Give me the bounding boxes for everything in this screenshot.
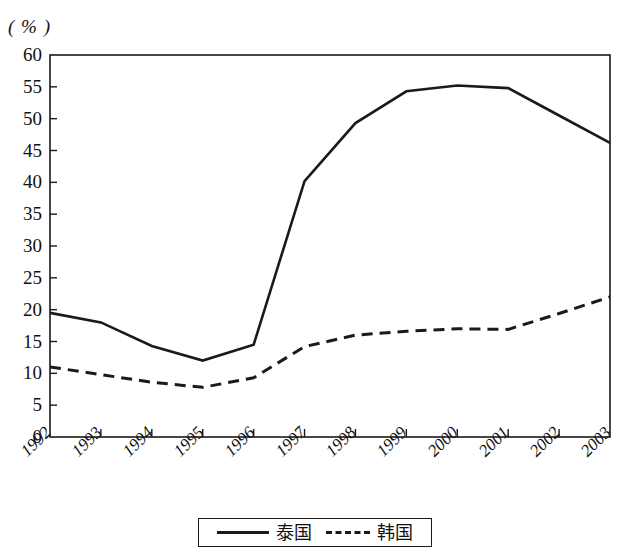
y-axis-tick-label: 25 <box>0 267 42 289</box>
legend-item-korea: 韩国 <box>326 524 413 542</box>
legend-label-thailand: 泰国 <box>276 524 312 542</box>
y-axis-tick-label: 10 <box>0 362 42 384</box>
y-axis-tick-label: 35 <box>0 203 42 225</box>
y-axis-tick-label: 20 <box>0 299 42 321</box>
legend: 泰国 韩国 <box>198 518 432 547</box>
legend-solid-line-icon <box>217 531 269 534</box>
series-line-2 <box>50 297 610 387</box>
y-axis-tick-label: 30 <box>0 235 42 257</box>
line-chart: ( % ) 605550454035302520151050 199219931… <box>0 0 623 556</box>
axis-frame <box>50 55 610 437</box>
legend-item-thailand: 泰国 <box>217 524 312 542</box>
series-line-1 <box>50 86 610 361</box>
plot-canvas <box>50 55 610 437</box>
plot-area <box>50 55 610 437</box>
y-axis-tick-label: 40 <box>0 171 42 193</box>
y-axis-unit-label: ( % ) <box>8 16 51 38</box>
y-axis-tick-label: 5 <box>0 394 42 416</box>
legend-dashed-line-icon <box>326 531 370 534</box>
legend-label-korea: 韩国 <box>377 524 413 542</box>
y-axis-tick-label: 15 <box>0 331 42 353</box>
y-axis-tick-label: 60 <box>0 44 42 66</box>
y-axis-tick-label: 50 <box>0 108 42 130</box>
y-axis-tick-label: 55 <box>0 76 42 98</box>
y-axis-tick-label: 45 <box>0 140 42 162</box>
